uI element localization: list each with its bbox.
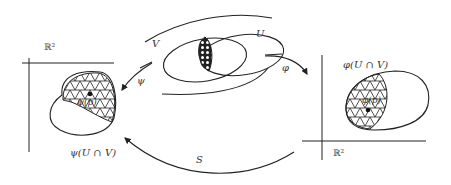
psi-u-cap-v-label: ψ(U ∩ V) <box>70 147 116 158</box>
phi-label: φ <box>282 62 289 73</box>
left-r2-label: ℝ² <box>44 42 55 52</box>
s-label: S <box>196 154 203 165</box>
right-r2-label: ℝ² <box>333 148 344 158</box>
diagram-canvas <box>0 0 451 185</box>
psi-label: ψ <box>137 75 145 86</box>
u-label: U <box>256 28 264 39</box>
v-label: V <box>152 38 159 49</box>
psi-p-label: ψ(p) <box>77 97 97 107</box>
left-point-p <box>88 92 93 97</box>
intersection-u-v <box>199 37 212 71</box>
phi-p-label: φ(p) <box>362 95 381 105</box>
open-sets-u-v <box>160 29 286 88</box>
right-point-p <box>366 108 371 113</box>
transition-map-s-arrow <box>125 138 294 173</box>
phi-u-cap-v-label: φ(U ∩ V) <box>343 59 388 70</box>
